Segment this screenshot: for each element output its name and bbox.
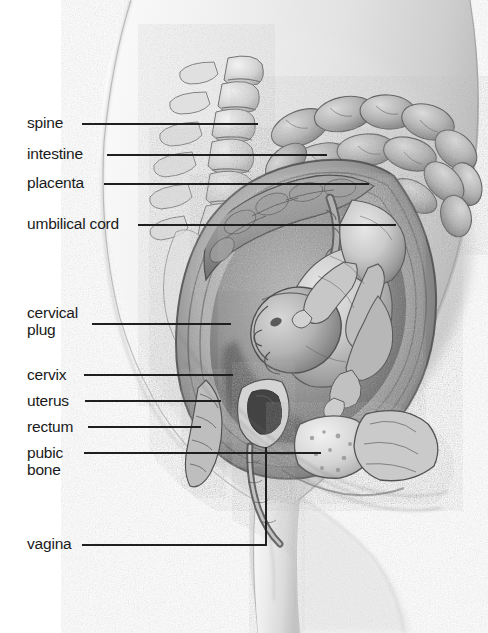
label-umbilical-cord: umbilical cord: [27, 215, 119, 232]
label-vagina: vagina: [27, 535, 71, 552]
label-cervix: cervix: [27, 366, 66, 383]
label-cervical-plug-line-0: cervical: [27, 304, 78, 321]
label-cervix-line-0: cervix: [27, 366, 66, 383]
label-pubic-bone: pubicbone: [27, 444, 63, 478]
label-rectum-line-0: rectum: [27, 418, 73, 435]
label-rectum: rectum: [27, 418, 73, 435]
label-uterus-line-0: uterus: [27, 392, 69, 409]
illustration-figure: spineintestineplacentaumbilical cordcerv…: [0, 0, 488, 633]
label-pubic-bone-line-1: bone: [27, 461, 63, 478]
label-spine-line-0: spine: [27, 114, 63, 131]
label-placenta-line-0: placenta: [27, 174, 84, 191]
label-intestine-line-0: intestine: [27, 145, 83, 162]
label-spine: spine: [27, 114, 63, 131]
label-umbilical-cord-line-0: umbilical cord: [27, 215, 119, 232]
label-uterus: uterus: [27, 392, 69, 409]
label-cervical-plug: cervicalplug: [27, 304, 78, 338]
label-intestine: intestine: [27, 145, 83, 162]
label-vagina-line-0: vagina: [27, 535, 71, 552]
label-cervical-plug-line-1: plug: [27, 321, 78, 338]
label-placenta: placenta: [27, 174, 84, 191]
label-pubic-bone-line-0: pubic: [27, 444, 63, 461]
